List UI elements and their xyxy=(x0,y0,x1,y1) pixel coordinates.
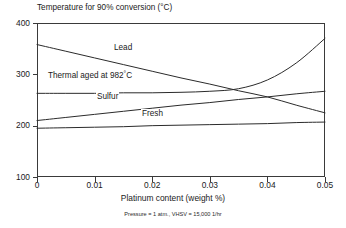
series-curve xyxy=(37,91,325,120)
chart-title: Temperature for 90% conversion (°C) xyxy=(37,2,172,13)
x-axis-title: Platinum content (weight %) xyxy=(0,193,346,204)
chart-footnote: Pressure = 1 atm., VHSV = 15,000 1/hr xyxy=(0,210,346,218)
x-tick-label: 0.01 xyxy=(75,181,115,190)
series-curves xyxy=(37,23,325,177)
x-tick-label: 0.04 xyxy=(247,181,287,190)
x-tick-label: 0.03 xyxy=(190,181,230,190)
x-tick-label: 0.02 xyxy=(132,181,172,190)
series-label-lead: Lead xyxy=(113,43,133,53)
chart-figure: Temperature for 90% conversion (°C) 400 … xyxy=(0,0,346,228)
series-curve xyxy=(37,122,325,128)
series-label-sulfur: Sulfur xyxy=(96,92,119,102)
series-curve xyxy=(37,38,325,93)
series-label-thermal-aged: Thermal aged at 982°C xyxy=(47,69,133,81)
y-tick-label: 400 xyxy=(0,19,30,28)
series-label-fresh: Fresh xyxy=(141,109,164,119)
y-tick-label: 300 xyxy=(0,70,30,79)
x-tick-label: 0 xyxy=(17,181,57,190)
x-tick-label: 0.05 xyxy=(305,181,345,190)
y-tick-label: 200 xyxy=(0,121,30,130)
